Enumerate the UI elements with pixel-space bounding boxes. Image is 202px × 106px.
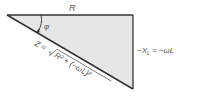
label-phi: φ xyxy=(44,22,49,31)
label-r: R xyxy=(69,3,76,13)
impedance-triangle-diagram: R φ −XL = −ωL Z = R² + (−ωL)² xyxy=(0,0,202,106)
svg-text:Z =: Z = xyxy=(32,38,48,52)
label-opposite: −XL = −ωL xyxy=(137,46,174,56)
